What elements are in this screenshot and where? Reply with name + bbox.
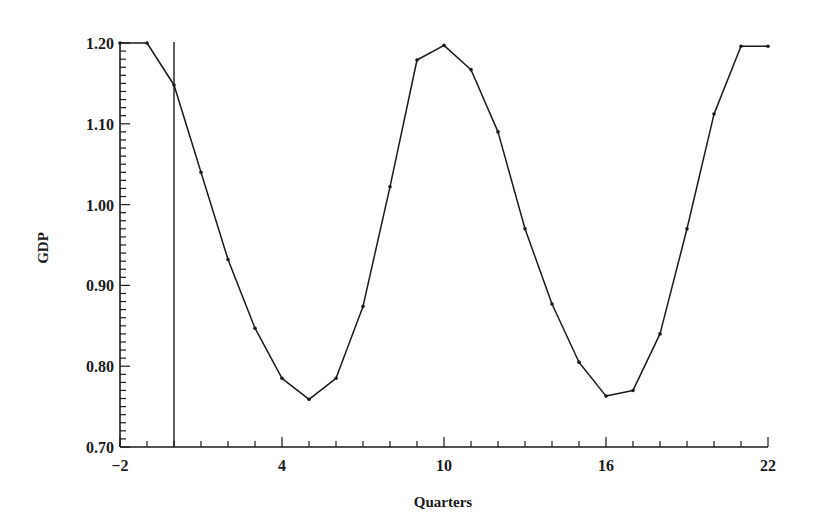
- data-point: [469, 68, 473, 72]
- y-tick-label: 0.90: [86, 277, 114, 294]
- y-tick-label: 1.20: [86, 35, 114, 52]
- y-tick-label: 0.70: [86, 439, 114, 456]
- data-point: [523, 227, 527, 231]
- data-point: [361, 305, 365, 309]
- x-axis-title: Quarters: [414, 494, 472, 510]
- data-point: [712, 112, 716, 116]
- data-point: [253, 326, 257, 330]
- data-point: [172, 83, 176, 87]
- axes: [120, 43, 768, 447]
- data-point: [307, 398, 311, 402]
- data-point: [118, 41, 122, 45]
- data-point: [280, 377, 284, 381]
- gdp-series: [118, 41, 770, 401]
- data-point: [388, 185, 392, 189]
- data-point: [739, 44, 743, 48]
- data-point: [415, 58, 419, 62]
- data-point: [631, 389, 635, 393]
- y-tick-label: 1.10: [86, 116, 114, 133]
- data-point: [658, 332, 662, 336]
- data-point: [685, 227, 689, 231]
- data-point: [550, 302, 554, 306]
- y-tick-label: 1.00: [86, 197, 114, 214]
- data-point: [496, 130, 500, 134]
- data-point: [199, 170, 203, 174]
- gdp-line-chart: 0.700.800.901.001.101.20−24101622 Quarte…: [0, 0, 816, 529]
- data-point: [442, 44, 446, 48]
- series-line: [120, 43, 768, 399]
- data-point: [604, 394, 608, 398]
- y-axis-title: GDP: [35, 232, 51, 264]
- y-tick-label: 0.80: [86, 358, 114, 375]
- tick-labels: 0.700.800.901.001.101.20−24101622: [86, 35, 776, 474]
- x-tick-label: −2: [111, 457, 128, 474]
- data-point: [766, 44, 770, 48]
- data-point: [577, 360, 581, 364]
- x-tick-label: 16: [598, 457, 614, 474]
- data-point: [145, 41, 149, 45]
- x-tick-label: 10: [436, 457, 452, 474]
- x-tick-label: 4: [278, 457, 286, 474]
- data-point: [226, 258, 230, 262]
- x-tick-label: 22: [760, 457, 776, 474]
- data-point: [334, 377, 338, 381]
